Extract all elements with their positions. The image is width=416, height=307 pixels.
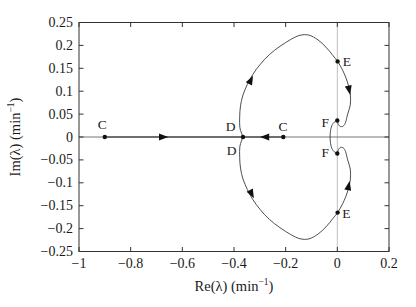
point-label-d: D [226, 119, 236, 134]
y-tick-label: −0.15 [41, 198, 73, 213]
x-tick-label: −0.4 [221, 256, 246, 271]
x-tick-label: −0.2 [273, 256, 298, 271]
y-axis-label-sup: −1 [6, 102, 16, 112]
data-point-dot [335, 59, 339, 63]
direction-arrow [345, 85, 354, 95]
data-point-dot [281, 135, 285, 139]
x-axis-label-sup: −1 [258, 277, 268, 287]
x-tick-label: −1 [72, 256, 87, 271]
point-labels: CCDDEEFF [98, 54, 351, 221]
x-axis-label-close: ) [269, 278, 274, 294]
y-tick-label: 0.2 [56, 38, 74, 53]
point-label-c: C [278, 119, 287, 134]
y-axis-label-close: ) [7, 98, 23, 103]
y-tick-label: 0 [66, 130, 73, 145]
y-tick-label: −0.1 [48, 175, 73, 190]
x-tick-label: −0.6 [170, 256, 195, 271]
data-point-dot [335, 118, 339, 122]
y-tick-label: 0.05 [49, 107, 74, 122]
point-label-e: E [343, 54, 351, 69]
data-point-dot [335, 151, 339, 155]
x-tick-label: 0 [334, 256, 341, 271]
y-tick-label: 0.25 [49, 15, 74, 30]
y-tick-label: −0.05 [41, 152, 73, 167]
data-point-dot [103, 135, 107, 139]
x-axis-label: Re(λ) (min−1) [79, 277, 389, 295]
x-tick-label: 0.2 [380, 256, 398, 271]
point-label-f: F [322, 115, 330, 130]
point-label-c: C [98, 117, 107, 132]
point-label-e: E [342, 206, 350, 221]
y-tick-label: −0.2 [48, 221, 73, 236]
x-axis-label-text: Re(λ) (min [195, 278, 259, 294]
y-tick-label: −0.25 [41, 244, 73, 259]
y-tick-label: 0.15 [49, 61, 74, 76]
data-point-dot [335, 210, 339, 214]
point-label-f: F [322, 145, 330, 160]
direction-arrow [260, 134, 269, 141]
direction-arrow [159, 134, 168, 141]
x-tick-label: −0.8 [118, 256, 143, 271]
figure-canvas: −1−0.8−0.6−0.4−0.200.20.250.20.150.10.05… [0, 0, 416, 307]
point-label-d: D [227, 143, 237, 158]
direction-arrow [344, 180, 353, 190]
y-axis-label-text: Im(λ) (min [7, 113, 23, 177]
y-tick-label: 0.1 [56, 84, 74, 99]
y-axis-label: Im(λ) (min−1) [6, 27, 26, 247]
plot-svg: −1−0.8−0.6−0.4−0.200.20.250.20.150.10.05… [0, 0, 416, 307]
data-point-dot [241, 135, 245, 139]
